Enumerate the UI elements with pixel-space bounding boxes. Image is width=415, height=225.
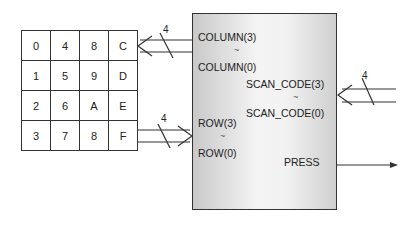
row-bus-width: 4 bbox=[161, 113, 167, 124]
scan-bus-width: 4 bbox=[362, 70, 368, 81]
signal-wires bbox=[0, 0, 415, 225]
press-arrowhead-icon bbox=[390, 162, 398, 168]
column-bus-width: 4 bbox=[163, 24, 169, 35]
